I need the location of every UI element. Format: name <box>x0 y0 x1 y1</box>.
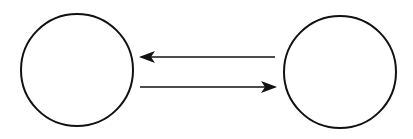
diagram-canvas <box>0 0 413 139</box>
right-node-circle <box>284 16 396 128</box>
left-node-circle <box>21 14 133 126</box>
